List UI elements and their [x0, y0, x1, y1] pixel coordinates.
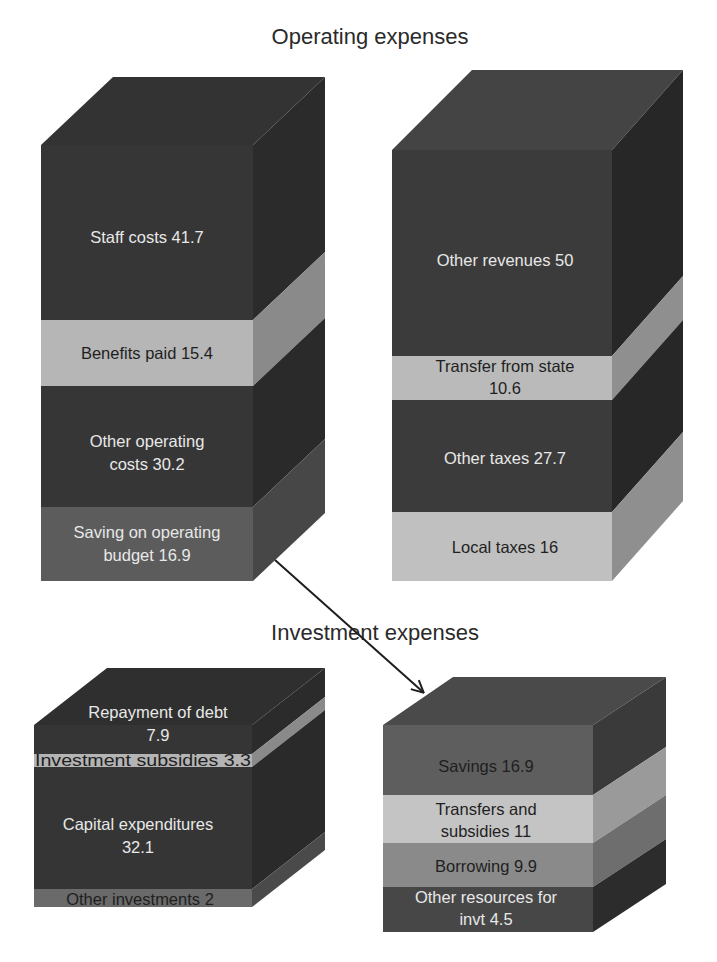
label-staff-costs: Staff costs 41.7	[90, 228, 203, 246]
operating-expenses-title: Operating expenses	[272, 24, 469, 49]
segment-saving-operating	[41, 507, 253, 581]
label-other-investments: Other investments 2	[66, 890, 214, 908]
label-benefits-paid: Benefits paid 15.4	[81, 344, 213, 362]
operating-resources-block: Other revenues 50 Transfer from state 10…	[392, 70, 683, 581]
label-transfers-line2: subsidies 11	[441, 822, 532, 840]
operating-uses-block: Staff costs 41.7 Benefits paid 15.4 Othe…	[41, 77, 325, 581]
label-capital-expenditures-line2: 32.1	[122, 838, 154, 856]
investment-expenses-title: Investment expenses	[271, 620, 479, 645]
label-local-taxes: Local taxes 16	[452, 538, 558, 556]
label-other-resources-line1: Other resources for	[415, 888, 558, 906]
label-repayment-of-debt-line2: 7.9	[147, 726, 170, 744]
label-other-resources-line2: invt 4.5	[459, 910, 512, 928]
label-transfer-from-state-line1: Transfer from state	[436, 357, 575, 375]
label-saving-operating-line2: budget 16.9	[103, 546, 190, 564]
label-saving-operating-line1: Saving on operating	[74, 523, 221, 541]
label-investment-subsidies: Investment subsidies 3.3	[35, 751, 251, 769]
label-transfer-from-state-line2: 10.6	[489, 379, 521, 397]
investment-uses-block: Repayment of debt 7.9 Investment subsidi…	[34, 668, 325, 908]
label-borrowing: Borrowing 9.9	[435, 857, 537, 875]
budget-blocks-diagram: Operating expenses Investment expenses S…	[0, 0, 717, 962]
investment-resources-block: Savings 16.9 Transfers and subsidies 11 …	[383, 677, 666, 932]
label-other-operating-line1: Other operating	[90, 432, 205, 450]
segment-repayment-of-debt	[34, 725, 252, 754]
label-capital-expenditures-line1: Capital expenditures	[63, 815, 213, 833]
label-repayment-of-debt-line1: Repayment of debt	[88, 703, 228, 721]
label-other-operating-line2: costs 30.2	[109, 455, 184, 473]
label-other-taxes: Other taxes 27.7	[444, 449, 566, 467]
label-transfers-line1: Transfers and	[435, 800, 536, 818]
label-other-revenues: Other revenues 50	[437, 251, 574, 269]
label-savings: Savings 16.9	[438, 757, 533, 775]
